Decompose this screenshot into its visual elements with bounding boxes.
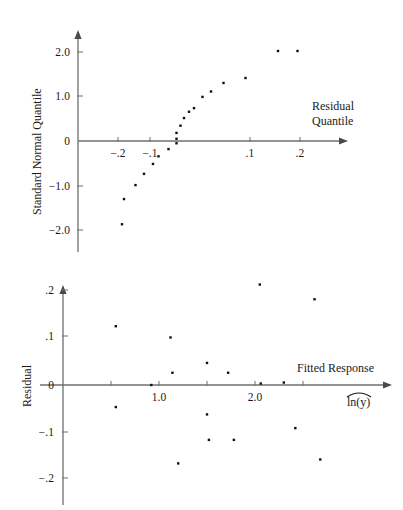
y-axis-title: Residual: [20, 365, 35, 407]
data-point: [143, 173, 145, 175]
data-point: [206, 413, 208, 415]
hat-accent-icon: [346, 390, 372, 398]
data-point-group: [115, 283, 322, 464]
x-tick-label: .2: [296, 147, 305, 159]
data-point: [208, 439, 210, 441]
data-point: [319, 458, 321, 460]
statistical-figure: 2.0 1.0 0 −1.0 −2.0 −.2 −.1 .1 .2 Standa…: [0, 0, 403, 510]
data-point: [294, 427, 296, 429]
y-tick-label: −.2: [24, 472, 54, 484]
x-tick-label: 2.0: [248, 391, 263, 403]
x-tick-label: −.1: [142, 147, 157, 159]
data-point: [244, 77, 246, 79]
data-point: [175, 138, 177, 140]
residual-vs-fitted-plot: .2 .1 0 −.1 −.2 1.0 2.0 Residual Fitted …: [0, 255, 403, 510]
data-point: [227, 372, 229, 374]
y-axis-title: Standard Normal Quantile: [30, 88, 45, 215]
residual-vs-fitted-canvas: [0, 255, 403, 510]
data-point: [150, 384, 152, 386]
data-point: [175, 132, 177, 134]
hat-accent-group: ln(y): [347, 393, 370, 410]
data-point: [222, 82, 224, 84]
data-point: [210, 90, 212, 92]
x-axis-title-line1: Residual: [312, 99, 354, 114]
data-point: [183, 117, 185, 119]
data-point: [206, 362, 208, 364]
x-tick-label: 1.0: [152, 391, 167, 403]
data-point: [260, 382, 262, 384]
data-point: [115, 325, 117, 327]
data-point: [201, 96, 203, 98]
x-axis-title-line2: Quantile: [312, 114, 353, 129]
x-tick-label: .1: [246, 147, 255, 159]
data-point: [115, 406, 117, 408]
data-point: [177, 462, 179, 464]
x-tick-label: −.2: [110, 147, 125, 159]
y-tick-label: .1: [24, 330, 54, 342]
data-point: [296, 50, 298, 52]
data-point: [167, 148, 169, 150]
data-point: [171, 372, 173, 374]
x-axis-title: Fitted Response: [297, 361, 374, 376]
data-point: [179, 125, 181, 127]
y-tick-label: −2.0: [38, 224, 70, 236]
data-point: [175, 142, 177, 144]
data-point: [169, 336, 171, 338]
data-point: [121, 223, 123, 225]
y-tick-label: −.1: [24, 426, 54, 438]
y-tick-label: .2: [24, 284, 54, 296]
data-point: [193, 107, 195, 109]
x-axis-symbol: ln(y): [347, 393, 370, 410]
data-point: [313, 298, 315, 300]
data-point: [283, 381, 285, 383]
data-point: [188, 111, 190, 113]
data-point: [152, 163, 154, 165]
data-point: [259, 283, 261, 285]
y-tick-label: 2.0: [38, 46, 70, 58]
normal-quantile-plot: 2.0 1.0 0 −1.0 −2.0 −.2 −.1 .1 .2 Standa…: [0, 0, 403, 255]
data-point: [277, 50, 279, 52]
data-point: [134, 184, 136, 186]
data-point: [123, 198, 125, 200]
data-point-group: [121, 50, 299, 226]
data-point: [233, 439, 235, 441]
